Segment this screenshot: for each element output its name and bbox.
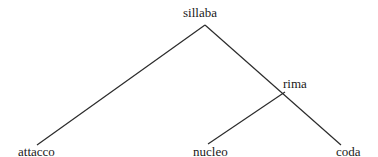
edge-sillaba-coda [205, 25, 341, 145]
edge-sillaba-attacco [37, 25, 205, 145]
edge-rima-nucleo [208, 92, 285, 144]
node-attacco: attacco [18, 145, 55, 157]
node-coda: coda [336, 145, 361, 157]
tree-edges [0, 0, 378, 157]
node-rima: rima [283, 77, 307, 90]
node-sillaba: sillaba [183, 6, 217, 19]
node-nucleo: nucleo [193, 145, 228, 157]
